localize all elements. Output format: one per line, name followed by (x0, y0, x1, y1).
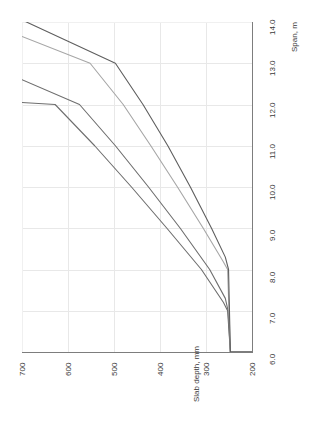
depth-tick-label: 200 (248, 363, 257, 376)
span-axis-title: Span, m (290, 22, 299, 52)
span-tick-label: 7.0 (268, 313, 277, 324)
plot-area (22, 22, 252, 352)
depth-tick-label: 700 (18, 363, 27, 376)
span-tick-label: 13.0 (268, 61, 277, 77)
span-axis-spine (252, 22, 253, 353)
series-curves (22, 22, 252, 352)
series-line (22, 22, 252, 352)
span-tick-label: 8.0 (268, 271, 277, 282)
series-line (22, 80, 252, 352)
chart-figure: 200300400500600700 6.07.08.09.010.011.01… (0, 0, 316, 423)
span-tick-label: 12.0 (268, 102, 277, 118)
depth-tick-label: 500 (110, 363, 119, 376)
span-tick-label: 6.0 (268, 354, 277, 365)
depth-tick-label: 300 (202, 363, 211, 376)
span-tick-label: 11.0 (268, 144, 277, 159)
depth-axis-title: Slab depth, mm (192, 346, 201, 402)
series-line (22, 102, 252, 352)
depth-tick-label: 600 (64, 363, 73, 376)
span-tick-label: 14.0 (268, 19, 277, 35)
depth-tick-label: 400 (156, 363, 165, 376)
span-tick-label: 10.0 (268, 184, 277, 200)
span-tick-label: 9.0 (268, 230, 277, 241)
depth-axis-spine (22, 352, 253, 353)
